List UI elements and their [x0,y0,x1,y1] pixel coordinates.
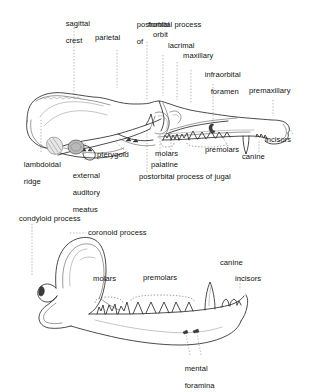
label-molars-lower: molars [93,275,116,284]
label-incisors-upper: incisors [265,136,291,145]
label-canine-lower: canine [220,259,243,268]
lower-tooth-row [97,282,241,314]
label-canine-upper: canine [242,153,265,162]
label-frontal: frontal [148,21,169,30]
label-premaxillary: premaxillary [249,87,291,96]
label-coronoid-process: coronoid process [88,229,147,238]
label-maxillary: maxillary [183,52,213,61]
label-molars-upper: molars [155,150,178,159]
label-postorbital-process-of-jugal: postorbital process of jugal [139,173,231,182]
label-mental-foramina: mental foramina [176,356,215,392]
label-lambdoidal-ridge: lambdoidal ridge [15,152,61,195]
label-infraorbital-foramen: infraorbital foramen [196,62,241,105]
mandible-leader-lines [32,224,240,355]
label-sagittal-crest: sagittal crest [57,11,90,54]
label-orbit: orbit [153,31,168,40]
label-palatine: palatine [151,161,178,170]
mandible-drawing [38,237,248,345]
label-premolars-lower: premolars [143,274,177,283]
label-parietal: parietal [95,34,120,43]
label-incisors-lower: incisors [235,275,261,284]
label-pterygoid: pterygoid [97,151,129,160]
label-premolars-upper: premolars [205,146,239,155]
label-lacrimal: lacrimal [168,42,195,51]
label-condyloid-process: condyloid process [19,215,81,224]
